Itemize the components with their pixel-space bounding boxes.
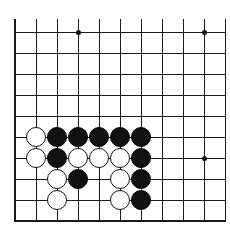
grid-line-vertical [14,19,16,222]
grid-line-vertical [99,19,100,222]
goban[interactable] [0,0,230,243]
white-stone[interactable] [110,148,130,168]
white-stone[interactable] [89,148,109,168]
grid-line-vertical [78,19,79,222]
white-stone[interactable] [110,169,130,189]
white-stone[interactable] [110,190,130,210]
go-board-figure [0,0,230,243]
black-stone[interactable] [89,127,109,147]
grid-line-vertical [225,19,226,222]
grid-line-vertical [36,19,37,222]
black-stone[interactable] [131,169,151,189]
black-stone[interactable] [131,190,151,210]
white-stone[interactable] [68,148,88,168]
grid-line-vertical [162,19,163,222]
white-stone[interactable] [26,148,46,168]
black-stone[interactable] [68,127,88,147]
grid-line-vertical [183,19,184,222]
star-point [76,30,81,35]
grid-line-vertical [204,19,205,222]
star-point [202,30,207,35]
star-point [202,156,207,161]
black-stone[interactable] [131,127,151,147]
white-stone[interactable] [47,169,67,189]
black-stone[interactable] [68,169,88,189]
black-stone[interactable] [131,148,151,168]
black-stone[interactable] [110,127,130,147]
white-stone[interactable] [26,127,46,147]
black-stone[interactable] [47,127,67,147]
white-stone[interactable] [47,190,67,210]
black-stone[interactable] [47,148,67,168]
